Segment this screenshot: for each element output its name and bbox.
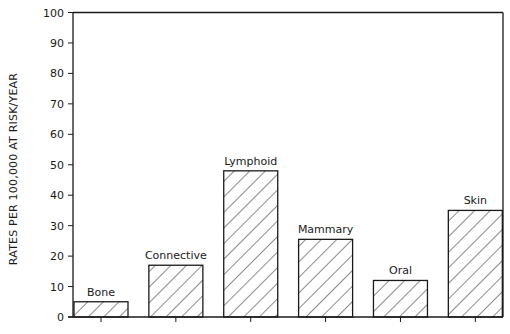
figure-caption-clipped bbox=[0, 324, 260, 334]
y-tick-label: 70 bbox=[50, 98, 64, 111]
bar-rect bbox=[224, 171, 278, 317]
bar-label: Connective bbox=[145, 249, 207, 262]
y-tick-label: 50 bbox=[50, 159, 64, 172]
y-tick-label: 0 bbox=[57, 311, 64, 324]
y-axis-label: RATES PER 100,000 AT RISK/YEAR bbox=[7, 73, 20, 265]
y-tick-label: 30 bbox=[50, 220, 64, 233]
bar-label: Bone bbox=[87, 286, 115, 299]
chart-canvas: 0102030405060708090100 BoneConnectiveLym… bbox=[0, 0, 510, 334]
plot-frame bbox=[68, 13, 503, 318]
bar-label: Oral bbox=[389, 264, 412, 277]
bar-rect bbox=[149, 265, 203, 317]
y-tick-label: 80 bbox=[50, 67, 64, 80]
bar-rect bbox=[448, 210, 502, 317]
bar-chart: 0102030405060708090100 BoneConnectiveLym… bbox=[0, 0, 510, 334]
y-tick-label: 40 bbox=[50, 189, 64, 202]
bar-bone: Bone bbox=[74, 286, 128, 317]
bar-mammary: Mammary bbox=[298, 223, 354, 317]
y-tick-label: 90 bbox=[50, 37, 64, 50]
bar-rect bbox=[373, 280, 427, 317]
y-tick-label: 100 bbox=[43, 7, 64, 20]
y-axis: 0102030405060708090100 bbox=[43, 7, 73, 325]
x-axis bbox=[101, 317, 475, 322]
bar-skin: Skin bbox=[448, 194, 502, 317]
bar-oral: Oral bbox=[373, 264, 427, 317]
y-tick-label: 60 bbox=[50, 128, 64, 141]
bars: BoneConnectiveLymphoidMammaryOralSkin bbox=[74, 155, 502, 317]
y-tick-label: 10 bbox=[50, 281, 64, 294]
bar-lymphoid: Lymphoid bbox=[224, 155, 278, 317]
bar-label: Skin bbox=[464, 194, 487, 207]
bar-rect bbox=[299, 239, 353, 317]
bar-rect bbox=[74, 302, 128, 317]
bar-label: Mammary bbox=[298, 223, 354, 236]
bar-connective: Connective bbox=[145, 249, 207, 317]
bar-label: Lymphoid bbox=[224, 155, 277, 168]
y-tick-label: 20 bbox=[50, 250, 64, 263]
